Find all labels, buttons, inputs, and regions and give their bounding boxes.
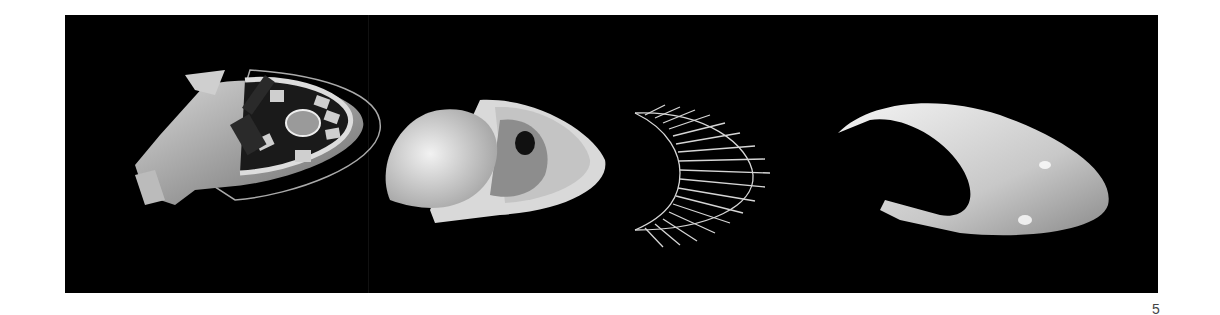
crescent-shell-render xyxy=(830,15,1140,293)
shell-cutaway-render xyxy=(370,15,630,293)
stadium-plan-render xyxy=(95,15,395,293)
structural-ribs-render xyxy=(625,15,845,293)
page-number: 5 xyxy=(1152,302,1160,315)
image-panel xyxy=(65,15,1158,293)
